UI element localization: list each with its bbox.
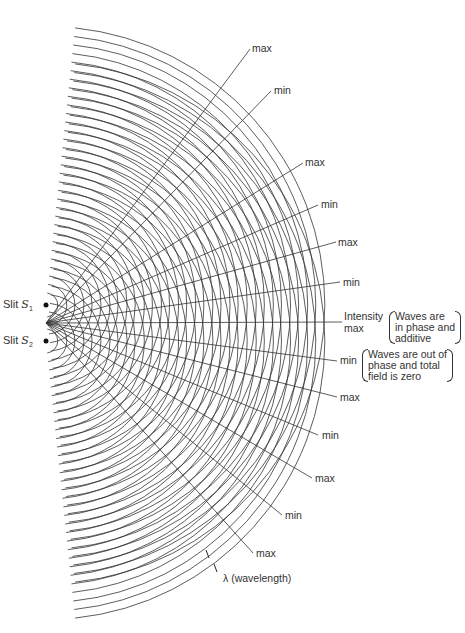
fringe-label-max: max: [252, 43, 272, 54]
fringe-label-min: min: [340, 355, 357, 366]
fringe-label-max: max: [256, 548, 276, 559]
fringe-label-min: min: [322, 430, 339, 441]
wavefront-arc: [67, 105, 247, 505]
fringe-label-min: min: [321, 199, 338, 210]
wavelength-marker: [206, 550, 217, 572]
slit-dot: [44, 303, 49, 308]
wavefront-arc: [68, 132, 256, 549]
wavelength-arrow: [214, 564, 217, 572]
wavefront-arc: [53, 278, 110, 405]
fringe-label-min: min: [343, 277, 360, 288]
fringe-label-intensity: Intensity: [344, 311, 383, 322]
fringe-label-max: max: [338, 237, 358, 248]
out-of-phase-note: Waves are out of phase and total field i…: [362, 349, 453, 382]
fringe-label-min: min: [274, 85, 291, 96]
wavefront-arc: [72, 62, 291, 548]
wavefront-arc: [67, 141, 247, 541]
slit-s2-label: Slit S2: [3, 334, 33, 348]
wavefront-arc: [62, 192, 196, 490]
fringe-line: [46, 242, 336, 323]
slit-s1-label: Slit S1: [3, 298, 33, 312]
wavefront-arc: [53, 242, 110, 369]
fringe-line: [46, 323, 337, 397]
slit-dot: [44, 339, 49, 344]
fringe-label-max: max: [344, 323, 364, 334]
wavefront-arc: [61, 165, 187, 445]
wavelength-label: λ (wavelength): [223, 573, 291, 584]
in-phase-note: Waves are in phase and additive: [389, 311, 461, 344]
fringe-label-max: max: [305, 157, 325, 168]
fringe-label-max: max: [340, 392, 360, 403]
wavefront-arc: [68, 96, 256, 513]
fringe-label-max: max: [315, 473, 335, 484]
fringe-label-min: min: [285, 510, 302, 521]
